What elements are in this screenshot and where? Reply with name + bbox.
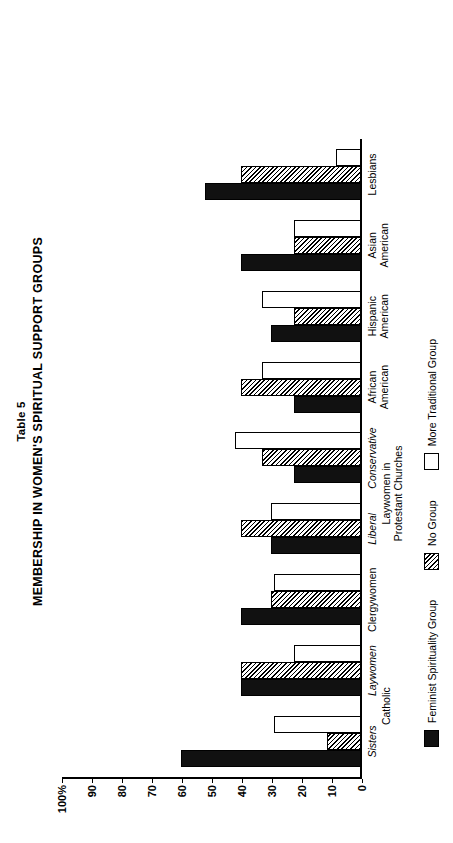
bar-group xyxy=(62,706,360,777)
legend-label-feminist: Feminist Spirituality Group xyxy=(426,600,438,723)
value-axis-tick-mark xyxy=(212,779,213,783)
bar xyxy=(327,733,360,750)
bar-group xyxy=(62,352,360,423)
rotated-figure: Table 5 MEMBERSHIP IN WOMEN'S SPIRITUAL … xyxy=(0,0,453,843)
value-axis-tick-label: 50 xyxy=(207,785,218,819)
bar xyxy=(181,750,360,767)
legend-item: More Traditional Group xyxy=(424,339,439,470)
value-axis-tick-label: 10 xyxy=(327,785,338,819)
bar xyxy=(262,450,360,467)
bar-group xyxy=(62,564,360,635)
bar xyxy=(274,716,360,733)
category-label-line1: Hispanic xyxy=(366,281,378,352)
bar xyxy=(205,183,360,200)
bar xyxy=(271,537,360,554)
bar xyxy=(294,220,360,237)
value-axis-tick-mark xyxy=(302,779,303,783)
value-axis-tick-mark xyxy=(242,779,243,783)
category-label-line1: Sisters xyxy=(366,706,378,777)
value-axis-tick-mark xyxy=(152,779,153,783)
category-axis-line xyxy=(360,139,362,779)
category-label-line1: Asian xyxy=(366,210,378,281)
value-axis-tick-label: 60 xyxy=(177,785,188,819)
bar xyxy=(241,379,360,396)
plot-area: 100%9080706050403020100 xyxy=(62,139,362,779)
bar-group xyxy=(62,139,360,210)
bar xyxy=(271,325,360,342)
figure-titles: Table 5 MEMBERSHIP IN WOMEN'S SPIRITUAL … xyxy=(0,0,46,843)
category-label-line1: Laywomen xyxy=(366,635,378,706)
legend-swatch-traditional xyxy=(424,453,439,470)
value-axis-tick-label: 20 xyxy=(297,785,308,819)
bar-group xyxy=(62,635,360,706)
category-label-line1: Liberal xyxy=(366,493,378,564)
value-axis-tick-label: 70 xyxy=(147,785,158,819)
super-label-protestant-line1: Laywomen in xyxy=(380,463,392,525)
table-number: Table 5 xyxy=(14,0,28,843)
legend-item: No Group xyxy=(424,500,439,570)
legend-label-nogroup: No Group xyxy=(426,500,438,546)
legend: Feminist Spirituality GroupNo GroupMore … xyxy=(424,339,439,747)
legend-item: Feminist Spirituality Group xyxy=(424,600,439,747)
bar xyxy=(294,396,360,413)
bar xyxy=(274,574,360,591)
value-axis-tick-mark xyxy=(92,779,93,783)
super-label-catholic-text: Catholic xyxy=(380,687,392,725)
figure-title: MEMBERSHIP IN WOMEN'S SPIRITUAL SUPPORT … xyxy=(30,0,46,843)
bar xyxy=(241,608,360,625)
bar xyxy=(262,291,360,308)
value-axis-tick-mark xyxy=(62,779,63,783)
category-label-line1: Clergywomen xyxy=(366,564,378,635)
bar-group xyxy=(62,493,360,564)
bar-group xyxy=(62,281,360,352)
bar-group xyxy=(62,210,360,281)
value-axis-tick-label: 0 xyxy=(357,785,368,819)
legend-swatch-feminist xyxy=(424,730,439,747)
bar xyxy=(262,362,360,379)
bar xyxy=(294,308,360,325)
bar-groups xyxy=(62,139,360,777)
bar-group xyxy=(62,423,360,494)
value-axis-tick-mark xyxy=(122,779,123,783)
bar xyxy=(294,237,360,254)
bar xyxy=(241,520,360,537)
legend-label-traditional: More Traditional Group xyxy=(426,339,438,446)
bar xyxy=(241,166,360,183)
value-axis-tick-label: 90 xyxy=(87,785,98,819)
value-axis-tick-label: 40 xyxy=(237,785,248,819)
bar xyxy=(271,503,360,520)
bar xyxy=(294,645,360,662)
category-label-line1: African xyxy=(366,352,378,423)
value-axis-tick-label: 80 xyxy=(117,785,128,819)
value-axis-tick-mark xyxy=(182,779,183,783)
bar xyxy=(294,467,360,484)
bar xyxy=(241,662,360,679)
super-label-catholic: Catholic xyxy=(380,635,392,777)
value-axis-tick-label: 30 xyxy=(267,785,278,819)
value-axis-tick-mark xyxy=(332,779,333,783)
category-label-line1: Conservative xyxy=(366,423,378,494)
bar xyxy=(241,679,360,696)
super-label-protestant-line2: Protestant Churches xyxy=(392,446,404,542)
value-axis-tick-label: 100% xyxy=(57,785,68,819)
bar xyxy=(241,254,360,271)
bar xyxy=(336,149,360,166)
category-label-line1: Lesbians xyxy=(366,139,378,210)
legend-swatch-nogroup xyxy=(424,553,439,570)
value-axis-tick-mark xyxy=(362,779,363,783)
bar xyxy=(271,591,360,608)
category-super-labels: Catholic Laywomen in Protestant Churches xyxy=(380,139,420,777)
bar xyxy=(235,433,360,450)
value-axis-tick-mark xyxy=(272,779,273,783)
super-label-protestant: Laywomen in Protestant Churches xyxy=(380,423,404,565)
figure: Table 5 MEMBERSHIP IN WOMEN'S SPIRITUAL … xyxy=(0,0,453,843)
